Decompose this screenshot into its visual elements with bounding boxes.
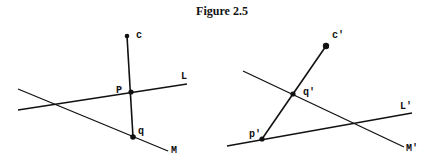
point-p — [128, 89, 133, 94]
point-q-prime — [290, 91, 295, 96]
label-line-L: L — [181, 71, 187, 82]
segment — [127, 36, 133, 137]
label-line-L-prime: L' — [400, 101, 412, 112]
label-line-M: M — [171, 145, 177, 156]
figure-canvas: LMcPqL'M'c'q'p' — [0, 0, 444, 165]
label-point-p: P — [116, 85, 122, 96]
point-q — [130, 134, 136, 140]
line-L — [18, 84, 187, 110]
label-line-M-prime: M' — [406, 143, 418, 154]
label-point-p-prime: p' — [249, 129, 261, 140]
right-diagram: L'M'c'q'p' — [227, 30, 418, 154]
label-point-q-prime: q' — [303, 87, 315, 98]
point-c — [125, 34, 130, 39]
label-point-c-prime: c' — [332, 30, 344, 41]
line-M-prime — [243, 71, 404, 147]
label-point-c: c — [136, 30, 142, 41]
label-point-q: q — [138, 126, 144, 137]
point-c-prime — [323, 43, 329, 49]
left-diagram: LMcPq — [18, 30, 187, 156]
